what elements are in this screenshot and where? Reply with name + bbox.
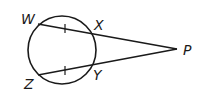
label-p: P: [183, 42, 192, 58]
label-y: Y: [93, 67, 103, 83]
label-x: X: [93, 17, 104, 33]
secant-zp: [38, 49, 177, 75]
secant-diagram: W X Z Y P: [0, 0, 205, 94]
circle: [28, 16, 96, 84]
secant-wp: [38, 24, 177, 49]
label-z: Z: [23, 76, 34, 92]
label-w: W: [21, 11, 36, 27]
